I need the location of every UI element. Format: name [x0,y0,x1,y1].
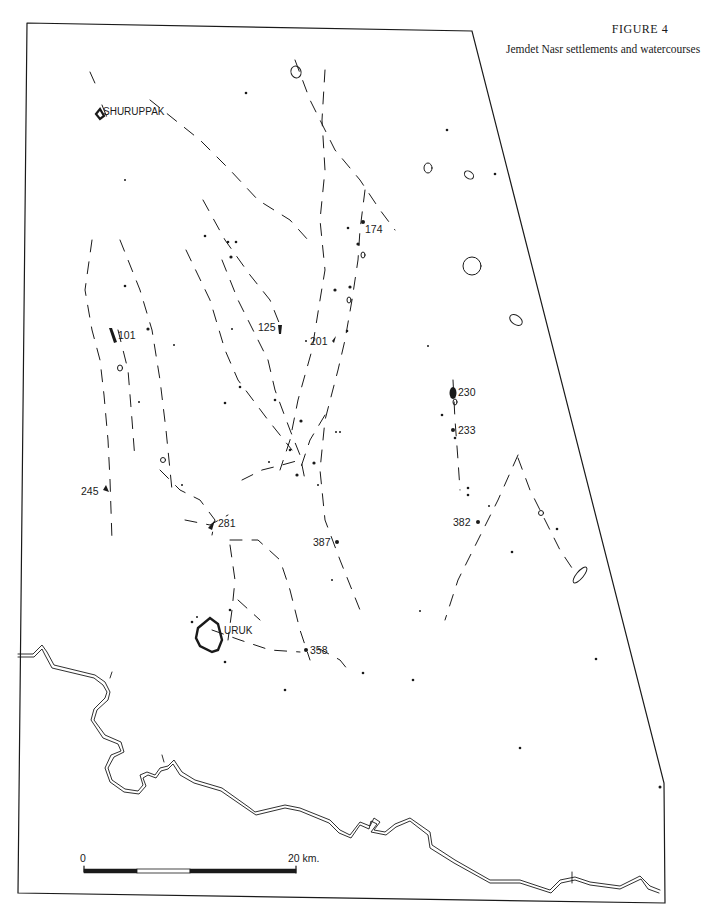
scale-segment-1 [84,869,137,873]
outlined-sites [96,65,589,652]
scale-segment-3 [190,869,296,873]
label-uruk: URUK [224,625,253,636]
label-site-382: 382 [453,516,471,528]
site-outline [118,365,123,371]
label-site-245: 245 [81,485,99,497]
scale-segment-2 [137,869,190,873]
settlement-map: SHURUPPAK URUK 174 101 125 201 230 233 2… [0,0,717,910]
filled-sites [103,220,480,652]
label-site-101: 101 [118,329,136,341]
minor-sites [124,92,662,789]
scale-start-label: 0 [80,852,86,864]
label-site-233: 233 [458,424,476,436]
label-site-174: 174 [365,223,383,235]
label-site-387: 387 [313,536,331,548]
scale-end-label: 20 km. [288,852,320,864]
label-site-358: 358 [310,644,328,656]
site-outline [289,65,303,80]
label-site-281: 281 [218,517,236,529]
survey-area-border [18,23,665,903]
site-outline [361,252,365,258]
label-shuruppak: SHURUPPAK [103,106,165,117]
uruk-outline [196,618,222,652]
scale-bar [84,866,296,873]
site-outline [463,169,475,180]
site-outline [161,458,166,463]
site-outline [463,257,481,275]
river [18,645,660,893]
label-site-125: 125 [258,321,276,333]
map-labels: SHURUPPAK URUK 174 101 125 201 230 233 2… [80,106,476,864]
site-outline [508,312,525,327]
site-outline [539,511,544,516]
site-outline [347,297,351,303]
label-site-201: 201 [310,335,328,347]
site-outline [424,163,432,173]
watercourses [85,60,572,670]
label-site-230: 230 [458,386,476,398]
site-outline [571,565,589,585]
